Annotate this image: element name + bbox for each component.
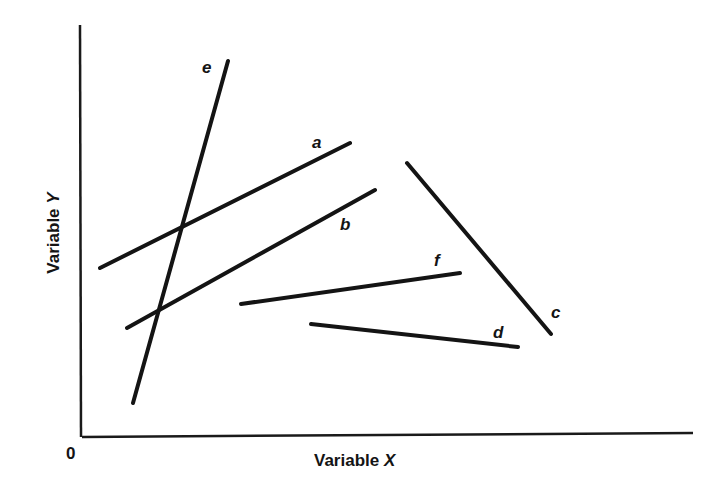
segment-label-e: e [202, 58, 211, 77]
segment-label-c: c [551, 303, 561, 322]
y-axis-label-text: Variable [44, 204, 63, 274]
segment-d [311, 324, 518, 347]
segment-b [127, 190, 375, 328]
y-axis-label: Variable Y [44, 191, 63, 274]
x-axis-label: Variable X [314, 451, 397, 470]
line-segments-diagram: 0 Variable X Variable Y abcdef [0, 0, 723, 499]
segment-label-b: b [340, 215, 350, 234]
x-axis-label-text: Variable [314, 451, 384, 470]
segment-c [407, 163, 551, 334]
y-axis [80, 25, 81, 437]
y-axis-label-variable: Y [44, 191, 63, 204]
x-axis [82, 433, 693, 437]
x-axis-label-variable: X [383, 451, 397, 470]
origin-label: 0 [66, 444, 75, 463]
segment-label-d: d [493, 323, 504, 342]
segment-e [133, 61, 228, 403]
segment-a [100, 143, 350, 268]
segment-f [241, 273, 460, 304]
segment-label-a: a [312, 133, 321, 152]
segments-group: abcdef [100, 58, 561, 403]
segment-label-f: f [434, 251, 442, 270]
